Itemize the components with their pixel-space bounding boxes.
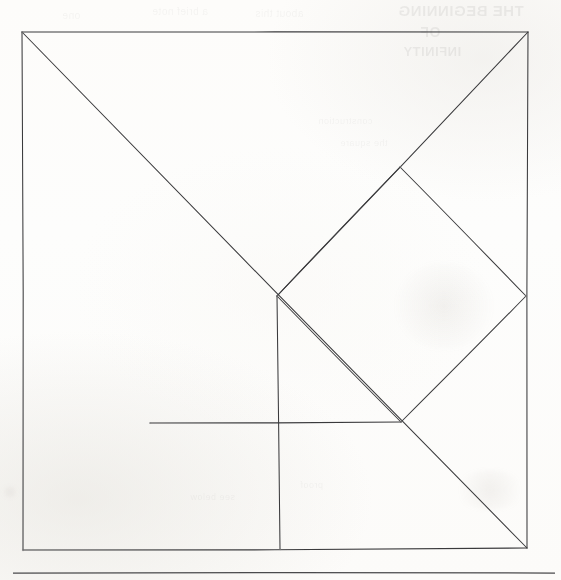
vertex-bottom-left-mark: [22, 549, 24, 551]
square-piece-lower-left-stroke: [277, 296, 401, 422]
tangram-figure: [0, 0, 561, 580]
vertex-square-bottom-mark: [400, 421, 403, 424]
vertex-square-right-mark: [525, 295, 527, 297]
vertex-square-top-mark: [399, 166, 401, 168]
main-diagonal-stroke: [22, 32, 527, 548]
square-piece-lower-right-stroke: [401, 296, 526, 422]
outer-edge-bottom-stroke: [23, 548, 527, 550]
scanned-page: THE BEGINNINGOFINFINITYa brief noteabout…: [0, 0, 561, 580]
parallelogram-base-stroke: [150, 422, 401, 423]
square-piece-upper-right-stroke: [400, 167, 526, 296]
segments-group: [22, 32, 528, 550]
outer-edge-left-stroke: [22, 32, 23, 550]
square-piece-upper-left-stroke: [277, 167, 400, 296]
outer-edge-right-stroke: [527, 32, 528, 548]
vertex-base-left-mark: [149, 422, 151, 424]
vertex-top-left-mark: [21, 31, 23, 33]
vertex-bottom-mid-mark: [279, 548, 281, 550]
vertex-center-mark: [276, 295, 278, 297]
